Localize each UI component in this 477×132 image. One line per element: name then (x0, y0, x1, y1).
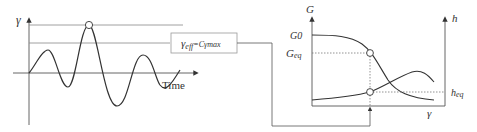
geq-label: Geq (286, 47, 302, 60)
strain-axis-label: γ (427, 107, 432, 119)
connector-line (237, 43, 370, 126)
heq-marker (367, 89, 374, 96)
time-axis-label: Time (162, 79, 185, 91)
heq-label: heq (451, 87, 464, 99)
strain-waveform (29, 25, 180, 106)
h-curve (312, 71, 434, 100)
peak-marker (85, 21, 92, 28)
h-axis-label: h (452, 12, 458, 24)
strain-time-history-chart: γ Time (13, 13, 196, 125)
g0-label: G0 (290, 30, 302, 41)
gamma-axis-label: γ (16, 13, 21, 27)
diagram-canvas: γ Time γeff=Cγmax G h γ G0 (0, 0, 477, 132)
g-axis-label: G (306, 3, 314, 15)
effective-strain-box: γeff=Cγmax (171, 33, 237, 53)
modulus-damping-chart: G h γ G0 Geq heq (286, 3, 464, 119)
geq-marker (367, 50, 374, 57)
